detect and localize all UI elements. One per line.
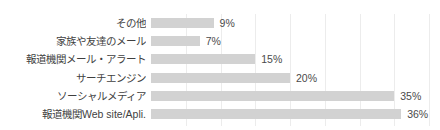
value-label: 35% xyxy=(400,87,421,105)
category-label: 報道機関Web site/Apli. xyxy=(0,105,146,123)
chart-row: 報道機関メール・アラート15% xyxy=(0,50,440,68)
chart-row: 家族や友達のメール7% xyxy=(0,32,440,50)
bar-wrapper xyxy=(151,69,290,87)
bar xyxy=(151,54,255,64)
category-label: 報道機関メール・アラート xyxy=(0,50,146,68)
bar-wrapper xyxy=(151,105,401,123)
value-label: 20% xyxy=(296,69,317,87)
bar-wrapper xyxy=(151,87,394,105)
category-label: 家族や友達のメール xyxy=(0,32,146,50)
category-label: サーチエンジン xyxy=(0,69,146,87)
chart-rows: その他9%家族や友達のメール7%報道機関メール・アラート15%サーチエンジン20… xyxy=(0,14,440,126)
value-label: 36% xyxy=(407,105,428,123)
chart-row: その他9% xyxy=(0,14,440,32)
chart-row: 報道機関Web site/Apli.36% xyxy=(0,105,440,123)
chart-row: ソーシャルメディア35% xyxy=(0,87,440,105)
bar-wrapper xyxy=(151,32,200,50)
value-label: 7% xyxy=(206,32,221,50)
category-label: その他 xyxy=(0,14,146,32)
chart-title xyxy=(0,0,440,5)
chart-row: サーチエンジン20% xyxy=(0,69,440,87)
bar xyxy=(151,109,401,119)
bar xyxy=(151,36,200,46)
bar xyxy=(151,73,290,83)
bar-wrapper xyxy=(151,14,214,32)
bar-chart: その他9%家族や友達のメール7%報道機関メール・アラート15%サーチエンジン20… xyxy=(0,0,440,130)
bar xyxy=(151,91,394,101)
value-label: 15% xyxy=(261,50,282,68)
bar xyxy=(151,18,214,28)
bar-wrapper xyxy=(151,50,255,68)
category-label: ソーシャルメディア xyxy=(0,87,146,105)
value-label: 9% xyxy=(220,14,235,32)
